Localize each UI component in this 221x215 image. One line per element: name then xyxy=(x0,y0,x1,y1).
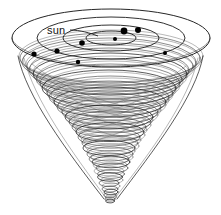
planet-dot-2 xyxy=(135,27,141,33)
planet-dot-4 xyxy=(79,40,85,46)
sun-vortex-illustration: sun xyxy=(0,0,221,215)
planet-dot-1 xyxy=(121,28,128,35)
planet-dot-6 xyxy=(31,51,36,56)
figure-root: sun xyxy=(0,0,221,215)
planet-dot-3 xyxy=(113,37,117,41)
sun-label: sun xyxy=(47,24,65,36)
planet-dot-7 xyxy=(76,60,80,64)
planet-dot-8 xyxy=(163,51,167,55)
planet-dot-5 xyxy=(54,48,59,53)
